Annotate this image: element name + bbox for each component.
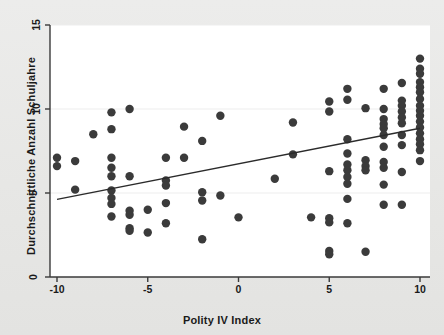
data-point xyxy=(107,164,115,172)
data-point xyxy=(325,167,333,175)
data-point xyxy=(343,85,351,93)
data-point xyxy=(398,141,406,149)
data-point xyxy=(398,79,406,87)
data-point xyxy=(53,154,61,162)
data-point xyxy=(343,219,351,227)
x-tick-label: 0 xyxy=(236,283,242,295)
y-tick-label: 10 xyxy=(30,103,42,115)
data-point xyxy=(107,108,115,116)
data-point xyxy=(198,196,206,204)
data-point xyxy=(416,146,424,154)
data-point xyxy=(289,118,297,126)
data-point xyxy=(343,149,351,157)
data-point xyxy=(325,218,333,226)
y-tick-label: 5 xyxy=(27,190,39,196)
data-point xyxy=(125,211,133,219)
data-point xyxy=(107,200,115,208)
data-point xyxy=(380,201,388,209)
x-tick-label: 10 xyxy=(414,283,426,295)
data-point xyxy=(162,219,170,227)
y-tick-label: 15 xyxy=(30,19,42,31)
data-point xyxy=(71,185,79,193)
data-point xyxy=(361,248,369,256)
data-point xyxy=(53,162,61,170)
scatter-plot-figure: Polity IV Index Durchschnittliche Anzahl… xyxy=(0,0,444,335)
data-point xyxy=(216,191,224,199)
data-point xyxy=(325,250,333,258)
plot-area-background xyxy=(50,25,430,277)
data-point xyxy=(307,213,315,221)
data-point xyxy=(380,164,388,172)
data-point xyxy=(198,188,206,196)
data-point xyxy=(416,54,424,62)
data-point xyxy=(380,143,388,151)
y-axis-label: Durchschnittliche Anzahl Schuljahre xyxy=(25,41,37,271)
data-point xyxy=(125,172,133,180)
data-point xyxy=(125,105,133,113)
data-point xyxy=(162,181,170,189)
x-axis-label: Polity IV Index xyxy=(0,314,444,326)
data-point xyxy=(162,199,170,207)
data-point xyxy=(144,206,152,214)
data-point xyxy=(343,195,351,203)
data-point xyxy=(180,154,188,162)
data-point xyxy=(325,107,333,115)
x-tick-label: -10 xyxy=(49,283,64,295)
data-point xyxy=(343,96,351,104)
data-point xyxy=(361,166,369,174)
data-point xyxy=(89,130,97,138)
data-point xyxy=(398,201,406,209)
data-point xyxy=(144,228,152,236)
data-point xyxy=(216,112,224,120)
data-point xyxy=(107,212,115,220)
data-point xyxy=(271,175,279,183)
data-point xyxy=(107,154,115,162)
data-point xyxy=(380,180,388,188)
data-point xyxy=(398,168,406,176)
data-point xyxy=(343,180,351,188)
data-point xyxy=(198,235,206,243)
data-point xyxy=(71,157,79,165)
data-point xyxy=(198,137,206,145)
data-point xyxy=(380,105,388,113)
data-point xyxy=(180,122,188,130)
data-point xyxy=(125,227,133,235)
data-point xyxy=(361,104,369,112)
data-point xyxy=(416,70,424,78)
data-point xyxy=(107,125,115,133)
data-point xyxy=(162,154,170,162)
data-point xyxy=(380,85,388,93)
data-point xyxy=(398,119,406,127)
data-point xyxy=(107,172,115,180)
data-point xyxy=(325,97,333,105)
data-point xyxy=(234,213,242,221)
x-tick-label: 5 xyxy=(326,283,332,295)
x-tick-label: -5 xyxy=(143,283,152,295)
data-point xyxy=(416,157,424,165)
plot-canvas xyxy=(0,0,444,335)
y-tick-label: 0 xyxy=(27,274,39,280)
